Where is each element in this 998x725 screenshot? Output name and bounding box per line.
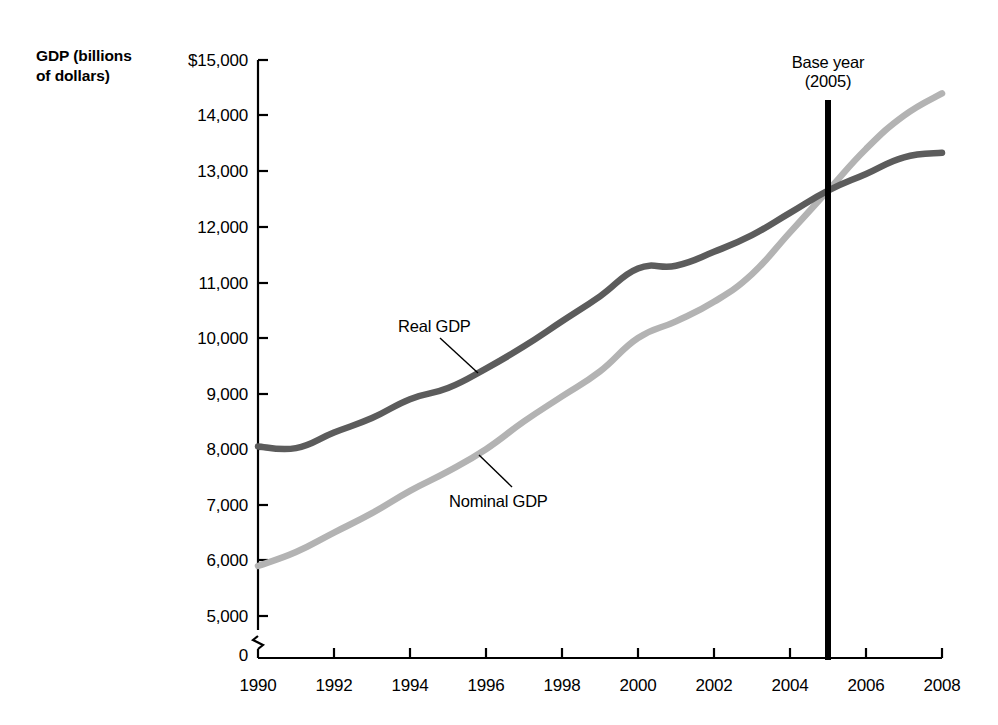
nominal-gdp-label: Nominal GDP — [449, 492, 548, 511]
real-gdp-label: Real GDP — [398, 317, 471, 336]
series-line-nominal-gdp — [258, 93, 942, 566]
y-axis-break-icon — [253, 636, 263, 649]
nominal-gdp-leader-line — [479, 455, 512, 487]
base-year-label-line2: (2005) — [748, 72, 908, 91]
series-line-real-gdp — [258, 153, 942, 449]
base-year-annotation: Base year (2005) — [748, 53, 908, 91]
y-axis-ticks — [258, 60, 268, 616]
gdp-chart: GDP (billions of dollars) $15,000 14,000… — [0, 0, 998, 725]
real-gdp-leader-line — [440, 338, 478, 373]
base-year-label-line1: Base year — [748, 53, 908, 72]
plot-area — [0, 0, 998, 725]
x-axis-ticks — [334, 648, 942, 658]
